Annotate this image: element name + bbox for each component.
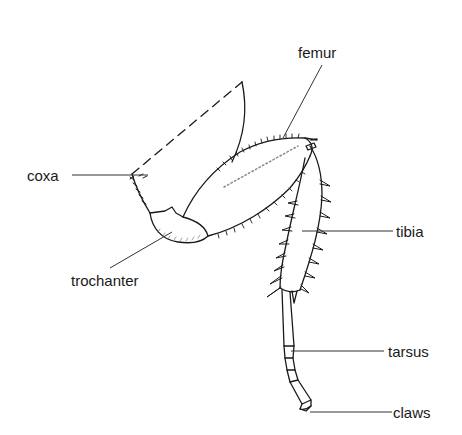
tarsus-label: tarsus xyxy=(388,344,429,359)
claws-segment xyxy=(300,400,311,411)
tarsus-segment xyxy=(282,290,311,404)
trochanter-label: trochanter xyxy=(71,273,139,288)
coxa-segment xyxy=(130,82,245,217)
claws-label: claws xyxy=(393,405,431,420)
femur-segment xyxy=(183,134,317,238)
tibia-label: tibia xyxy=(396,224,424,239)
femur-leader-line xyxy=(283,65,322,138)
tibia-segment xyxy=(267,139,331,303)
leg-drawing xyxy=(0,0,462,435)
coxa-label: coxa xyxy=(27,168,59,183)
trochanter-segment xyxy=(150,213,208,243)
femur-label: femur xyxy=(298,45,336,60)
insect-leg-diagram: femur coxa tibia trochanter tarsus claws xyxy=(0,0,462,435)
trochanter-leader-line xyxy=(110,232,172,268)
